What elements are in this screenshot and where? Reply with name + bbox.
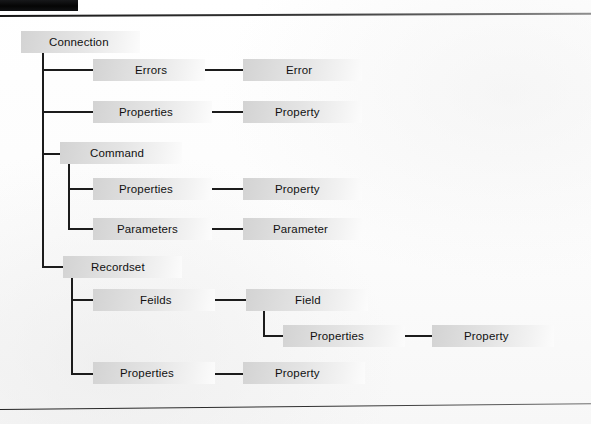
edge-connection-to-command xyxy=(42,153,62,155)
edge-field-to-properties xyxy=(263,335,285,337)
node-label-connection: Connection xyxy=(49,31,109,53)
edge-connection-trunk xyxy=(42,53,44,267)
node-command[interactable]: Command xyxy=(60,142,182,164)
object-model-tree-diagram: Connection Errors Error Properties Prope… xyxy=(0,0,591,424)
node-label-command-properties: Properties xyxy=(119,178,173,200)
node-feilds[interactable]: Feilds xyxy=(93,289,215,311)
node-connection-properties[interactable]: Properties xyxy=(93,101,212,123)
node-recordset-property[interactable]: Property xyxy=(243,362,365,384)
node-label-feilds: Feilds xyxy=(140,289,172,311)
node-label-command-property: Property xyxy=(275,178,320,200)
node-label-command: Command xyxy=(90,142,144,164)
edge-errors-to-error xyxy=(205,69,245,71)
edge-feilds-to-field xyxy=(213,299,248,301)
node-command-property[interactable]: Property xyxy=(243,178,362,200)
node-field-properties[interactable]: Properties xyxy=(283,325,405,347)
node-parameter[interactable]: Parameter xyxy=(243,218,362,240)
node-parameters[interactable]: Parameters xyxy=(93,218,212,240)
node-connection[interactable]: Connection xyxy=(21,31,140,53)
node-label-errors: Errors xyxy=(135,59,167,81)
node-field[interactable]: Field xyxy=(246,289,368,311)
edge-command-trunk xyxy=(68,164,70,229)
edge-recordset-to-feilds xyxy=(71,299,95,301)
edge-recordset-to-properties xyxy=(71,373,95,375)
edge-command-to-properties xyxy=(68,188,95,190)
node-connection-property[interactable]: Property xyxy=(243,101,362,123)
node-error[interactable]: Error xyxy=(243,59,362,81)
node-label-field-properties: Properties xyxy=(310,325,364,347)
node-label-recordset: Recordset xyxy=(91,256,145,278)
node-errors[interactable]: Errors xyxy=(93,59,205,81)
node-label-error: Error xyxy=(286,59,312,81)
edge-connection-to-properties xyxy=(42,111,94,113)
edge-command-to-parameters xyxy=(68,228,95,230)
node-label-parameters: Parameters xyxy=(117,218,178,240)
edge-connection-to-recordset xyxy=(42,266,65,268)
node-label-connection-properties: Properties xyxy=(119,101,173,123)
node-label-recordset-properties: Properties xyxy=(120,362,174,384)
node-label-field-property: Property xyxy=(464,325,509,347)
edge-field-trunk xyxy=(263,311,265,336)
node-recordset[interactable]: Recordset xyxy=(63,256,182,278)
node-label-parameter: Parameter xyxy=(273,218,328,240)
node-label-field: Field xyxy=(295,289,321,311)
node-field-property[interactable]: Property xyxy=(432,325,554,347)
node-command-properties[interactable]: Properties xyxy=(93,178,212,200)
scanned-page: Connection Errors Error Properties Prope… xyxy=(0,0,591,424)
node-recordset-properties[interactable]: Properties xyxy=(93,362,215,384)
node-label-recordset-property: Property xyxy=(275,362,320,384)
edge-recordset-trunk xyxy=(71,278,73,374)
edge-connection-to-errors xyxy=(42,69,94,71)
node-label-connection-property: Property xyxy=(275,101,320,123)
